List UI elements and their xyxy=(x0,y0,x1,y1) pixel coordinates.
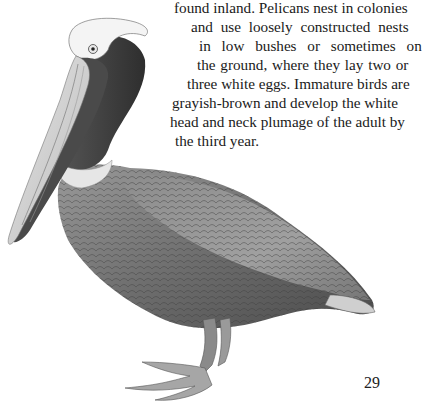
paragraph-line: the third year. xyxy=(175,131,259,150)
paragraph-line: and use loosely constructed nests xyxy=(191,17,384,36)
paragraph-line: the ground, where they lay two or xyxy=(197,55,384,74)
paragraph-line: grayish-brown and develop the white xyxy=(172,93,384,112)
paragraph-line: found inland. Pelicans nest in colonies xyxy=(174,0,408,17)
paragraph-line: in low bushes or sometimes on xyxy=(199,36,384,55)
paragraph-line: head and neck plumage of the adult by xyxy=(170,112,384,131)
page-number: 29 xyxy=(364,374,380,392)
paragraph-line: three white eggs. Immature birds are xyxy=(187,74,384,93)
